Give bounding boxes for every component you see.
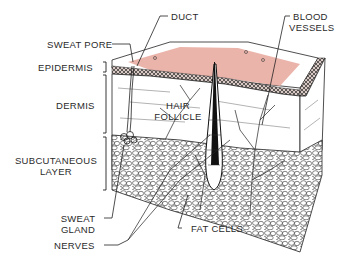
label-hair-follicle-line1: HAIR — [160, 101, 196, 111]
layer-brackets — [103, 62, 106, 190]
skin-diagram: DUCT BLOOD VESSELS SWEAT PORE EPIDERMIS … — [0, 0, 340, 270]
label-blood-vessels-line1: BLOOD — [293, 12, 328, 22]
label-nerves: NERVES — [54, 241, 95, 251]
label-subcutaneous-line1: SUBCUTANEOUS — [11, 156, 101, 166]
label-blood-vessels-line2: VESSELS — [289, 23, 334, 33]
label-epidermis: EPIDERMIS — [38, 63, 93, 73]
label-subcutaneous-line2: LAYER — [11, 167, 101, 177]
label-duct: DUCT — [171, 12, 199, 22]
label-fat-cells: FAT CELLS — [191, 224, 243, 234]
label-sweat-gland-line1: SWEAT — [56, 214, 100, 224]
label-sweat-pore: SWEAT PORE — [47, 40, 112, 50]
label-dermis: DERMIS — [56, 101, 95, 111]
label-sweat-gland-line2: GLAND — [56, 225, 100, 235]
label-hair-follicle-line2: FOLLICLE — [152, 112, 204, 122]
